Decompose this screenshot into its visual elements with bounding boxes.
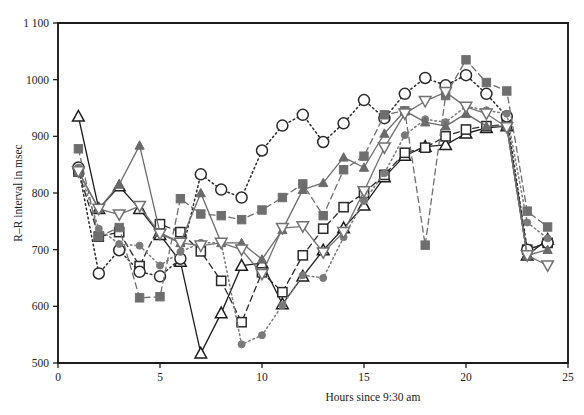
x-tick-label: 0 <box>55 371 61 383</box>
series-line-subject-4 <box>78 60 547 298</box>
y-tick-label: 700 <box>32 244 50 256</box>
marker-open-square <box>421 143 430 152</box>
marker-filled-square <box>462 56 470 64</box>
x-tick-label: 5 <box>157 371 163 383</box>
marker-filled-square <box>482 78 490 86</box>
axis-frame <box>58 23 568 363</box>
y-axis-title: R–R interval in msec <box>12 144 24 241</box>
marker-filled-circle <box>524 219 531 226</box>
marker-open-circle <box>134 266 145 277</box>
marker-filled-square <box>156 293 164 301</box>
marker-filled-square <box>319 211 327 219</box>
marker-filled-triangle-up <box>359 163 368 171</box>
marker-filled-circle <box>279 302 286 309</box>
y-tick-label: 1000 <box>26 74 49 86</box>
series-subject-1 <box>73 111 554 358</box>
marker-open-circle <box>338 118 349 129</box>
marker-filled-square <box>380 111 388 119</box>
marker-open-triangle-down <box>542 261 554 271</box>
marker-open-circle <box>297 109 308 120</box>
marker-filled-circle <box>320 275 327 282</box>
marker-filled-square <box>217 211 225 219</box>
marker-filled-triangle-up <box>339 153 348 161</box>
marker-open-circle <box>195 169 206 180</box>
x-tick-label: 15 <box>358 371 370 383</box>
marker-open-triangle-down <box>419 97 431 107</box>
marker-filled-circle <box>95 225 102 232</box>
series-subject-2 <box>74 120 552 327</box>
marker-filled-square <box>421 241 429 249</box>
marker-open-circle <box>236 192 247 203</box>
chart-figure: 50060070080090010001 1000510152025Hours … <box>0 0 584 415</box>
marker-open-square <box>461 125 470 134</box>
x-tick-label: 25 <box>562 371 574 383</box>
marker-open-square <box>441 132 450 141</box>
marker-filled-circle <box>401 132 408 139</box>
y-tick-label: 1 100 <box>23 17 49 29</box>
marker-open-square <box>278 288 287 297</box>
marker-open-circle <box>318 137 329 148</box>
marker-filled-square <box>543 223 551 231</box>
marker-open-square <box>319 224 328 233</box>
series-line-subject-1 <box>78 117 547 354</box>
marker-open-circle <box>481 88 492 99</box>
marker-filled-triangle-up <box>196 188 205 196</box>
marker-open-triangle-down <box>481 109 493 119</box>
x-tick-label: 10 <box>256 371 268 383</box>
marker-open-square <box>400 148 409 157</box>
marker-open-triangle-up <box>73 111 85 122</box>
marker-open-circle <box>461 70 472 81</box>
series-subject-5 <box>75 103 551 348</box>
marker-filled-square <box>115 223 123 231</box>
marker-open-square <box>217 276 226 285</box>
series-subject-4 <box>74 56 552 302</box>
marker-filled-triangle-up <box>115 180 124 188</box>
y-tick-label: 500 <box>32 357 50 369</box>
marker-open-circle <box>216 184 227 195</box>
marker-open-triangle-up <box>215 307 227 318</box>
marker-filled-circle <box>238 341 245 348</box>
series-line-subject-6 <box>78 111 547 259</box>
marker-open-circle <box>93 268 104 279</box>
marker-filled-square <box>237 215 245 223</box>
marker-open-square <box>298 251 307 260</box>
marker-filled-square <box>258 206 266 214</box>
marker-open-circle <box>420 72 431 83</box>
marker-filled-square <box>278 193 286 201</box>
marker-filled-square <box>360 152 368 160</box>
y-tick-label: 600 <box>32 300 50 312</box>
marker-filled-square <box>176 194 184 202</box>
marker-filled-square <box>339 166 347 174</box>
y-tick-label: 800 <box>32 187 50 199</box>
marker-filled-triangle-up <box>135 141 144 149</box>
series-subject-3 <box>73 70 553 282</box>
marker-filled-square <box>74 145 82 153</box>
marker-filled-circle <box>157 262 164 269</box>
marker-filled-square <box>135 294 143 302</box>
marker-filled-circle <box>299 272 306 279</box>
x-tick-label: 20 <box>460 371 472 383</box>
rr-interval-line-chart: 50060070080090010001 1000510152025Hours … <box>0 0 584 415</box>
series-line-subject-5 <box>78 106 547 344</box>
marker-filled-square <box>95 232 103 240</box>
marker-filled-circle <box>503 110 510 117</box>
marker-filled-circle <box>116 241 123 248</box>
series-subject-7 <box>73 88 554 280</box>
marker-open-circle <box>359 95 370 106</box>
marker-open-circle <box>257 145 268 156</box>
marker-open-triangle-up <box>195 347 207 358</box>
marker-filled-circle <box>381 170 388 177</box>
series-line-subject-2 <box>78 124 547 322</box>
marker-open-triangle-down <box>113 210 125 220</box>
marker-filled-circle <box>259 332 266 339</box>
marker-open-triangle-down <box>379 143 391 153</box>
marker-open-square <box>339 203 348 212</box>
marker-open-circle <box>399 88 410 99</box>
marker-filled-circle <box>136 242 143 249</box>
y-tick-label: 900 <box>32 130 50 142</box>
marker-filled-circle <box>544 235 551 242</box>
marker-open-circle <box>277 120 288 131</box>
marker-filled-square <box>503 87 511 95</box>
marker-filled-square <box>197 210 205 218</box>
x-axis-title: Hours since 9:30 am <box>326 391 421 403</box>
